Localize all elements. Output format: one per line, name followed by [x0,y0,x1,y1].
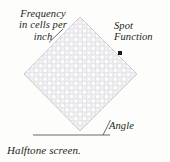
angle-label: Angle [109,120,134,131]
spot-dot-icon [118,51,122,55]
halftone-screen-figure: Frequency in cells per inch Spot Functio… [0,0,170,162]
figure-caption: Halftone screen. [7,145,81,157]
frequency-label: Frequency in cells per inch [6,8,80,42]
spot-function-label: Spot Function [114,20,153,43]
